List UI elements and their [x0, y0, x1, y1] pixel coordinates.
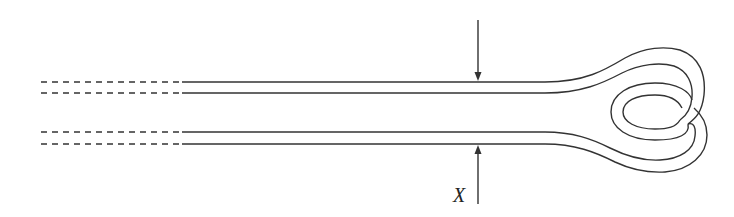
- dashed-continuation: [41, 82, 181, 144]
- tube-loop-diagram: [0, 0, 734, 217]
- dimension-label-x: X: [453, 184, 465, 207]
- top-arrow-head: [475, 72, 482, 81]
- upper-inner-wall: [182, 64, 692, 120]
- bottom-arrow-head: [475, 145, 482, 154]
- upper-outer-wall: [182, 48, 704, 124]
- diagram-canvas: X: [0, 0, 734, 217]
- coil-inner: [623, 95, 682, 129]
- lower-outer-wall: [182, 108, 707, 172]
